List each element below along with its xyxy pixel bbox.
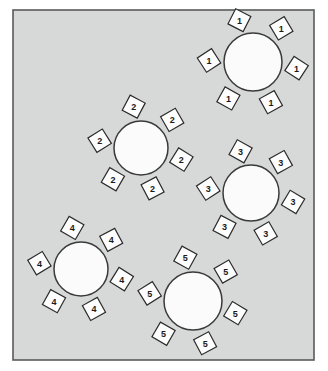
floor-plan-diagram: 111111222222333333444444555555 bbox=[0, 0, 328, 371]
round-table-1[interactable] bbox=[224, 33, 282, 91]
round-table-2[interactable] bbox=[114, 121, 168, 175]
round-table-5[interactable] bbox=[164, 272, 222, 330]
floor-plan-canvas: 111111222222333333444444555555 bbox=[0, 0, 328, 371]
round-table-4[interactable] bbox=[54, 242, 108, 296]
round-table-3[interactable] bbox=[223, 165, 279, 221]
